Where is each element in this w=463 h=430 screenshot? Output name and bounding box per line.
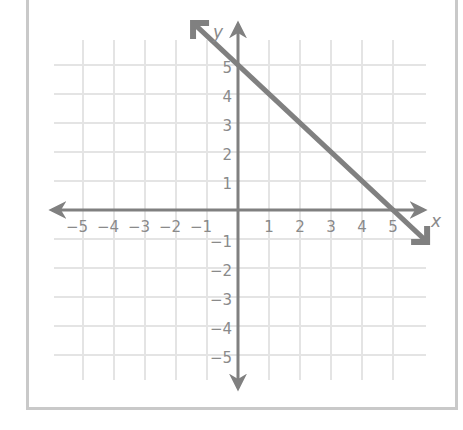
- y-tick-label: 3: [222, 117, 232, 135]
- x-tick-label: 3: [326, 218, 336, 236]
- x-axis-label: x: [430, 211, 442, 231]
- x-tick-label: −4: [97, 218, 119, 236]
- x-tick-label: −5: [66, 218, 88, 236]
- y-tick-label: 1: [222, 175, 232, 193]
- y-tick-label: −3: [210, 291, 232, 309]
- x-tick-label: 2: [295, 218, 305, 236]
- x-tick-label: 4: [357, 218, 367, 236]
- y-tick-label: −4: [210, 320, 232, 338]
- x-tick-label: 1: [264, 218, 274, 236]
- x-tick-label: −1: [190, 218, 212, 236]
- x-tick-label: −2: [159, 218, 181, 236]
- coordinate-plane: −5−4−3−2−11234554321−1−2−3−4−5 x y: [0, 0, 463, 430]
- x-tick-label: 5: [388, 218, 398, 236]
- tick-labels: −5−4−3−2−11234554321−1−2−3−4−5: [66, 59, 398, 367]
- y-tick-label: −2: [210, 262, 232, 280]
- y-tick-label: 5: [222, 59, 232, 77]
- y-tick-label: 4: [222, 88, 232, 106]
- y-axis-label: y: [212, 22, 224, 42]
- y-tick-label: −5: [210, 349, 232, 367]
- y-tick-label: −1: [210, 233, 232, 251]
- x-tick-label: −3: [128, 218, 150, 236]
- axes: [52, 24, 424, 388]
- y-tick-label: 2: [222, 146, 232, 164]
